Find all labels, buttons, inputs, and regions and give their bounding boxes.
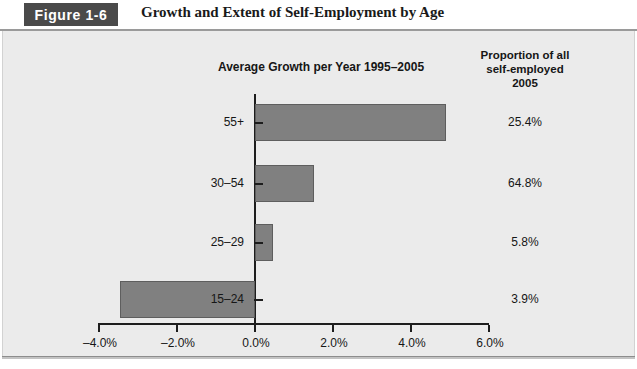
chart-title: Average Growth per Year 1995–2005 (196, 60, 446, 74)
figure-title: Growth and Extent of Self-Employment by … (141, 4, 444, 21)
proportion-header-line-1: Proportion of all (455, 48, 595, 62)
figure-number-badge: Figure 1-6 (24, 3, 118, 26)
figure-header: Figure 1-6 Growth and Extent of Self-Emp… (0, 0, 637, 30)
proportion-header-line-2: self-employed (455, 62, 595, 76)
figure-container: Figure 1-6 Growth and Extent of Self-Emp… (0, 0, 637, 369)
proportion-header-line-3: 2005 (455, 76, 595, 90)
panel-bottom-divider (2, 356, 635, 359)
proportion-column-header: Proportion of all self-employed 2005 (455, 48, 595, 90)
